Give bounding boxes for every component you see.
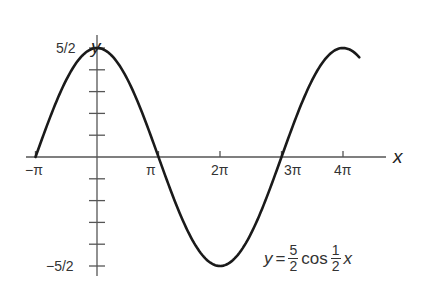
eq-x: x [344,249,353,269]
eq-argument-coefficient: 1 2 [331,243,341,274]
y-tick-label-min: −5/2 [46,258,74,274]
eq-func: cos [301,249,327,269]
x-tick-label-neg-pi: −π [25,162,43,178]
eq-y: y [264,249,273,269]
eq-coefficient: 5 2 [288,243,298,274]
x-tick-label-2pi: 2π [211,162,228,178]
x-tick-label-3pi: 3π [284,162,301,178]
y-tick-label-max: 5/2 [56,40,75,56]
eq-equals: = [276,249,286,269]
y-axis-label: y [91,36,101,58]
x-tick-label-4pi: 4π [334,162,351,178]
x-tick-label-pi: π [146,162,156,178]
x-axis-label: x [393,146,403,168]
equation-annotation: y = 5 2 cos 1 2 x [264,243,352,274]
